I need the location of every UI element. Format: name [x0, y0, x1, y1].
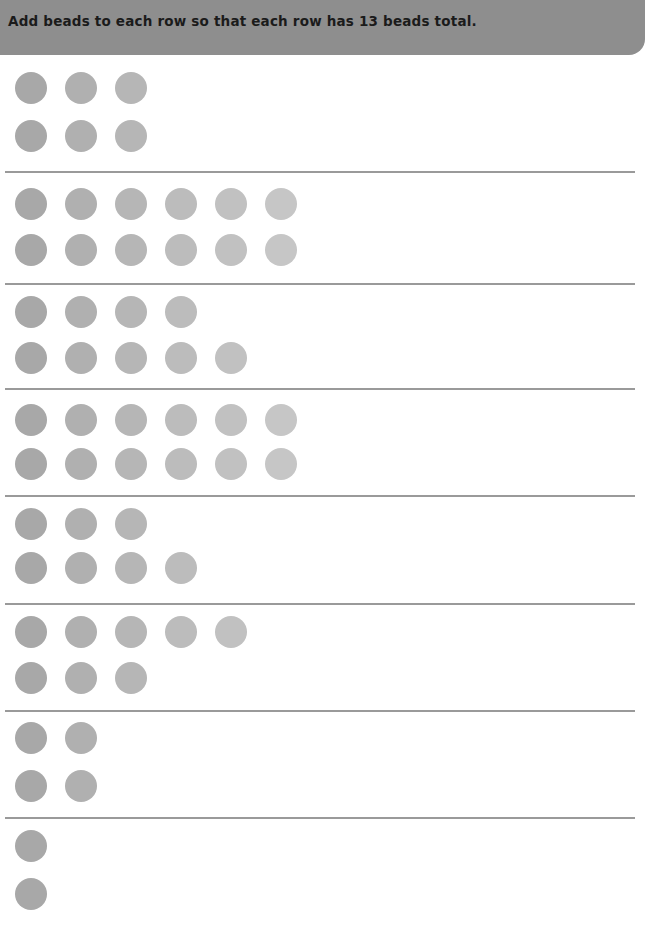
bead — [115, 404, 147, 436]
bead-row — [0, 290, 658, 340]
bead — [15, 448, 47, 480]
bead — [115, 448, 147, 480]
bead — [15, 120, 47, 152]
bead — [65, 552, 97, 584]
bead — [115, 72, 147, 104]
bead-row — [0, 228, 658, 278]
bead — [15, 878, 47, 910]
bead — [15, 296, 47, 328]
bead — [65, 296, 97, 328]
bead — [65, 770, 97, 802]
bead — [115, 296, 147, 328]
bead — [165, 552, 197, 584]
bead-row — [0, 716, 658, 766]
bead — [15, 552, 47, 584]
bead — [165, 342, 197, 374]
bead — [15, 722, 47, 754]
bead-row — [0, 398, 658, 448]
bead — [65, 448, 97, 480]
row-divider — [5, 710, 635, 712]
bead — [265, 404, 297, 436]
bead — [165, 404, 197, 436]
row-divider — [5, 171, 635, 173]
row-divider — [5, 603, 635, 605]
instruction-banner: Add beads to each row so that each row h… — [0, 0, 645, 55]
bead-row — [0, 610, 658, 660]
bead-row — [0, 546, 658, 596]
bead — [265, 234, 297, 266]
bead — [165, 234, 197, 266]
bead — [15, 616, 47, 648]
bead — [165, 296, 197, 328]
bead-row — [0, 824, 658, 874]
bead — [15, 234, 47, 266]
bead — [65, 72, 97, 104]
row-divider — [5, 495, 635, 497]
bead — [65, 234, 97, 266]
bead — [65, 342, 97, 374]
bead — [115, 188, 147, 220]
bead — [65, 616, 97, 648]
bead — [165, 448, 197, 480]
instruction-text: Add beads to each row so that each row h… — [8, 13, 477, 29]
bead-row — [0, 336, 658, 386]
bead-row — [0, 182, 658, 232]
bead — [115, 616, 147, 648]
bead — [15, 404, 47, 436]
bead — [115, 234, 147, 266]
bead — [215, 234, 247, 266]
bead — [115, 342, 147, 374]
bead-row — [0, 872, 658, 922]
bead-row — [0, 66, 658, 116]
bead — [215, 404, 247, 436]
bead — [215, 448, 247, 480]
worksheet-body — [0, 55, 658, 937]
bead — [215, 188, 247, 220]
bead — [15, 188, 47, 220]
bead — [115, 120, 147, 152]
bead-row — [0, 442, 658, 492]
bead — [165, 616, 197, 648]
bead — [65, 508, 97, 540]
row-divider — [5, 283, 635, 285]
bead — [65, 188, 97, 220]
bead — [215, 342, 247, 374]
bead — [15, 508, 47, 540]
bead — [65, 722, 97, 754]
bead — [15, 830, 47, 862]
bead-row — [0, 114, 658, 164]
bead-row — [0, 502, 658, 552]
bead — [65, 404, 97, 436]
bead — [15, 662, 47, 694]
bead — [65, 120, 97, 152]
bead — [115, 662, 147, 694]
row-divider — [5, 817, 635, 819]
bead — [115, 508, 147, 540]
bead — [215, 616, 247, 648]
bead — [65, 662, 97, 694]
bead — [265, 448, 297, 480]
bead — [15, 72, 47, 104]
bead-row — [0, 656, 658, 706]
bead — [15, 770, 47, 802]
bead-row — [0, 764, 658, 814]
bead — [115, 552, 147, 584]
bead — [265, 188, 297, 220]
bead — [165, 188, 197, 220]
bead — [15, 342, 47, 374]
row-divider — [5, 388, 635, 390]
